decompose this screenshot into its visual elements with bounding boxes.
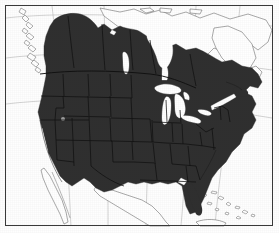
range-map-figure bbox=[0, 0, 279, 233]
great-salt-lake bbox=[61, 117, 65, 121]
arctic-island bbox=[190, 9, 202, 14]
north-america-range-map bbox=[0, 0, 279, 233]
arctic-island bbox=[160, 8, 172, 13]
